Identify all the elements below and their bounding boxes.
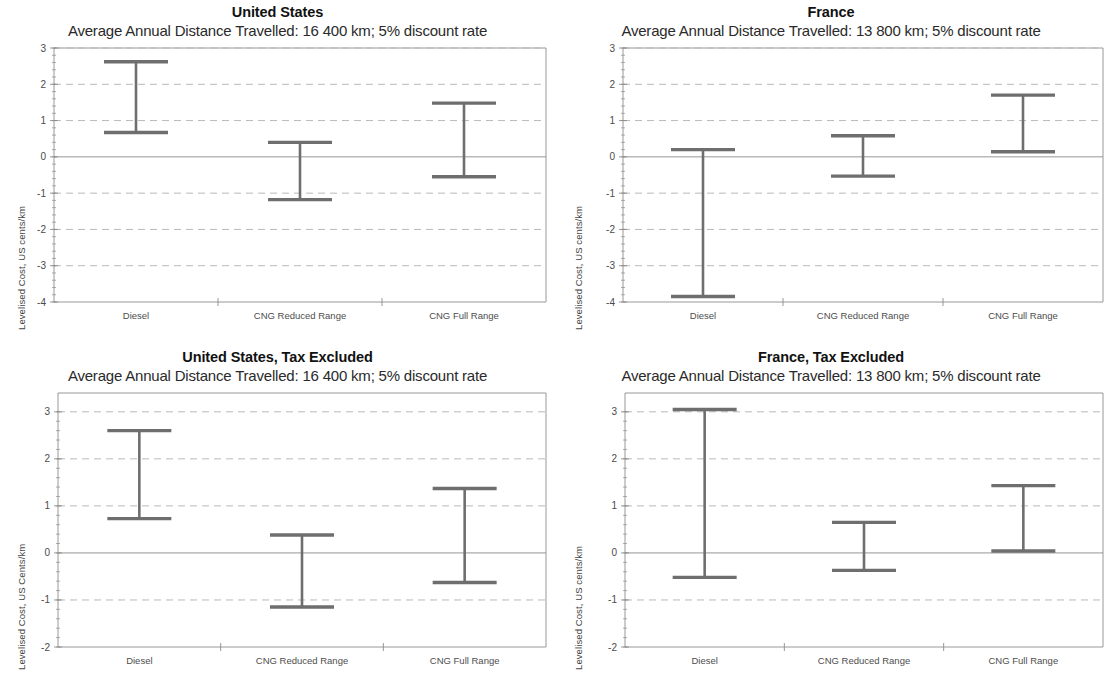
x-category-label: CNG Full Range [430, 655, 500, 666]
chart-svg: 3210-1-2-3-4DieselCNG Reduced RangeCNG F… [0, 40, 555, 340]
range-bar [991, 486, 1055, 551]
panel-titles: France Average Annual Distance Travelled… [555, 0, 1107, 40]
x-category-label: CNG Full Range [429, 310, 499, 321]
chart-svg: 3210-1-2-3-4DieselCNG Reduced RangeCNG F… [555, 40, 1107, 340]
panel-titles: United States Average Annual Distance Tr… [0, 0, 555, 40]
range-bar [104, 62, 168, 133]
y-tick-label: 2 [44, 453, 50, 464]
y-tick-label: -4 [606, 297, 615, 308]
y-tick-label: 1 [44, 500, 50, 511]
range-bar [831, 136, 895, 176]
y-tick-label: 1 [40, 115, 46, 126]
y-tick-label: 3 [44, 406, 50, 417]
range-bar [673, 409, 737, 577]
panel-title: France [555, 3, 1107, 21]
x-category-label: CNG Reduced Range [256, 655, 348, 666]
y-tick-label: 1 [611, 500, 617, 511]
panel-titles: United States, Tax Excluded Average Annu… [0, 345, 555, 385]
y-tick-label: 2 [611, 453, 617, 464]
range-bar [270, 535, 334, 607]
x-category-label: CNG Reduced Range [817, 310, 909, 321]
y-tick-label: 0 [609, 151, 615, 162]
y-tick-label: -1 [608, 594, 617, 605]
y-tick-label: 2 [40, 79, 46, 90]
panel-france-tax-excluded: France, Tax Excluded Average Annual Dist… [555, 345, 1107, 690]
figure-grid: United States Average Annual Distance Tr… [0, 0, 1107, 690]
panel-united-states: United States Average Annual Distance Tr… [0, 0, 555, 345]
y-tick-label: -1 [37, 188, 46, 199]
panel-title: United States, Tax Excluded [0, 348, 555, 366]
panel-france: France Average Annual Distance Travelled… [555, 0, 1107, 345]
y-tick-label: 1 [609, 115, 615, 126]
chart-svg: 3210-1-2DieselCNG Reduced RangeCNG Full … [555, 385, 1107, 685]
panel-subtitle: Average Annual Distance Travelled: 16 40… [0, 366, 555, 385]
panel-title: United States [0, 3, 555, 21]
y-tick-label: 3 [609, 43, 615, 54]
y-tick-label: 3 [611, 406, 617, 417]
y-tick-label: 3 [40, 43, 46, 54]
panel-united-states-tax-excluded: United States, Tax Excluded Average Annu… [0, 345, 555, 690]
y-tick-label: -3 [37, 260, 46, 271]
panel-subtitle: Average Annual Distance Travelled: 16 40… [0, 21, 555, 40]
y-tick-label: 0 [611, 547, 617, 558]
y-tick-label: -2 [37, 224, 46, 235]
x-category-label: Diesel [691, 655, 717, 666]
range-bar [432, 103, 496, 177]
y-tick-label: -2 [606, 224, 615, 235]
y-tick-label: -2 [41, 642, 50, 653]
x-category-label: Diesel [123, 310, 149, 321]
x-category-label: CNG Reduced Range [818, 655, 910, 666]
chart-svg: 3210-1-2DieselCNG Reduced RangeCNG Full … [0, 385, 555, 685]
y-tick-label: -4 [37, 297, 46, 308]
y-tick-label: 0 [44, 547, 50, 558]
x-category-label: Diesel [690, 310, 716, 321]
panel-titles: France, Tax Excluded Average Annual Dist… [555, 345, 1107, 385]
range-bar [268, 142, 332, 199]
panel-subtitle: Average Annual Distance Travelled: 13 80… [555, 366, 1107, 385]
range-bar [107, 431, 171, 519]
panel-subtitle: Average Annual Distance Travelled: 13 80… [555, 21, 1107, 40]
y-tick-label: 2 [609, 79, 615, 90]
y-tick-label: 0 [40, 151, 46, 162]
x-category-label: CNG Full Range [988, 310, 1058, 321]
x-category-label: CNG Full Range [988, 655, 1058, 666]
panel-title: France, Tax Excluded [555, 348, 1107, 366]
y-tick-label: -1 [41, 594, 50, 605]
y-tick-label: -2 [608, 642, 617, 653]
x-category-label: Diesel [126, 655, 152, 666]
range-bar [991, 95, 1055, 152]
y-tick-label: -1 [606, 188, 615, 199]
range-bar [832, 522, 896, 570]
y-tick-label: -3 [606, 260, 615, 271]
x-category-label: CNG Reduced Range [254, 310, 346, 321]
range-bar [671, 150, 735, 297]
range-bar [433, 488, 497, 582]
